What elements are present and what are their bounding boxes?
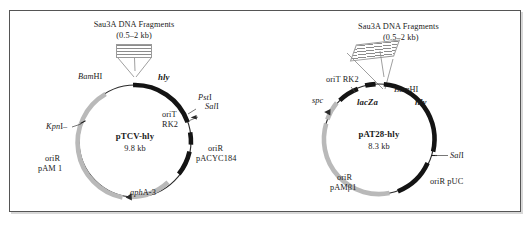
label-orir-pacyc184-line2: pACYC184: [196, 154, 236, 164]
label-kpni-left: KpnI–: [46, 122, 67, 132]
arc-hly-left: [133, 85, 188, 122]
plasmid-left-graphic: [10, 11, 275, 213]
arc-orir-pacyc184-left: [179, 152, 190, 174]
label-sali-left: SalI: [205, 102, 219, 112]
arc-orir-puc-right: [398, 163, 428, 191]
label-apha3-left: aphA-3: [130, 188, 156, 198]
plasmid-right-graphic: [275, 11, 522, 213]
label-orit-rk2-left-line2: RK2: [162, 120, 178, 130]
label-orir-pam1-line2: pAM 1: [38, 164, 62, 174]
label-orir-pambeta1-line1: oriR: [337, 173, 352, 183]
arc-orit-rk2-left: [190, 132, 191, 144]
label-orir-puc-right: oriR pUC: [430, 177, 463, 187]
label-orir-pam1-line1: oriR: [45, 154, 60, 164]
plasmid-map-pat28-hly: Sau3A DNA Fragments (0.5–2 kb): [275, 11, 522, 211]
plasmid-title-left: pTCV-hly: [85, 132, 185, 142]
label-hly-left: hly: [158, 73, 170, 83]
arc-orit-rk2-right: [340, 89, 358, 101]
plasmid-title-right: pAT28-hly: [329, 130, 429, 140]
label-orit-rk2-right: oriT RK2: [326, 75, 359, 85]
label-hly-right: hly: [415, 98, 427, 108]
label-orir-pambeta1-line2: pAMβ1: [330, 183, 356, 193]
plasmid-size-left: 9.8 kb: [85, 144, 185, 154]
label-orit-rk2-left-line1: oriT: [162, 110, 177, 120]
plasmid-map-ptcv-hly: Sau3A DNA Fragments (0.5–2 kb): [10, 11, 275, 211]
label-sali-right: SalI: [450, 151, 464, 161]
leader-psti-left: [188, 109, 196, 114]
arc-lacza-right: [365, 84, 375, 86]
funnel-lines-left: [118, 58, 151, 77]
label-spc-right: spc: [312, 96, 323, 106]
plasmid-size-right: 8.3 kb: [329, 142, 429, 152]
label-bamhi-right: BamHI: [394, 85, 418, 95]
figure-frame: Sau3A DNA Fragments (0.5–2 kb): [9, 10, 521, 212]
label-bamhi-left: BamHI: [78, 72, 102, 82]
label-orir-pacyc184-line1: oriR: [208, 144, 223, 154]
label-lacza-right: lacZa: [357, 98, 378, 108]
